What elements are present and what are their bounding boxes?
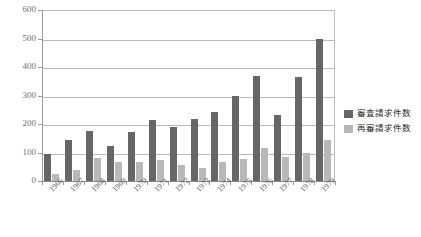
chart-legend: 審査請求件数 再審請求件数 xyxy=(344,108,420,138)
legend-item-label: 再審請求件数 xyxy=(357,124,411,133)
bar-group xyxy=(230,10,251,181)
bar-group xyxy=(314,10,335,181)
bar-shinsa[interactable] xyxy=(316,39,323,182)
bar-shinsa[interactable] xyxy=(295,77,302,181)
bar-shinsa[interactable] xyxy=(253,76,260,181)
bar-shinsa[interactable] xyxy=(191,119,198,181)
bar-shinsa[interactable] xyxy=(65,140,72,181)
bar-group xyxy=(168,10,189,181)
bar-group xyxy=(126,10,147,181)
legend-item-0[interactable]: 審査請求件数 xyxy=(344,108,420,119)
bar-group xyxy=(42,10,63,181)
y-axis-tick-label: 200 xyxy=(2,119,36,128)
bar-group xyxy=(105,10,126,181)
bar-shinsa[interactable] xyxy=(211,112,218,181)
y-axis-tick-label: 400 xyxy=(2,62,36,71)
bar-group xyxy=(209,10,230,181)
bar-shinsa[interactable] xyxy=(274,115,281,181)
bar-shinsa[interactable] xyxy=(107,146,114,181)
bar-shinsa[interactable] xyxy=(44,154,51,181)
bar-group xyxy=(251,10,272,181)
legend-swatch-icon xyxy=(344,110,353,118)
bar-shinsa[interactable] xyxy=(232,96,239,182)
bars-layer xyxy=(42,10,335,181)
bar-group xyxy=(147,10,168,181)
bar-shinsa[interactable] xyxy=(170,127,177,181)
legend-swatch-icon xyxy=(344,125,353,133)
y-axis-tick-label: 300 xyxy=(2,91,36,100)
bar-shinsa[interactable] xyxy=(86,131,93,181)
y-axis-tick-label: 500 xyxy=(2,34,36,43)
y-axis-tick-label: 0 xyxy=(2,176,36,185)
bar-shinsa[interactable] xyxy=(128,132,135,181)
legend-item-1[interactable]: 再審請求件数 xyxy=(344,123,420,134)
bar-shinsa[interactable] xyxy=(149,120,156,181)
x-axis-tick-mark xyxy=(42,181,43,185)
y-axis-tick-label: 600 xyxy=(2,5,36,14)
y-axis-tick-label: 100 xyxy=(2,148,36,157)
legend-item-label: 審査請求件数 xyxy=(357,109,411,118)
bar-chart: 6005004003002001000 19661967196819691970… xyxy=(0,0,421,237)
bar-group xyxy=(63,10,84,181)
bar-group xyxy=(84,10,105,181)
bar-group xyxy=(293,10,314,181)
bar-group xyxy=(272,10,293,181)
bar-group xyxy=(189,10,210,181)
